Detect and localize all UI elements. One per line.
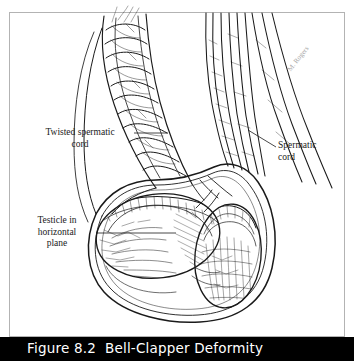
label-spermatic-cord: Spermatic cord bbox=[278, 140, 344, 163]
label-twisted-spermatic-cord: Twisted spermatic cord bbox=[28, 127, 132, 150]
right-testicle-vertical-group bbox=[190, 201, 267, 311]
label-testicle-horizontal-plane: Testicle in horizontal plane bbox=[20, 215, 94, 250]
figure-page: Twisted spermatic cord Spermatic cord Te… bbox=[0, 0, 354, 361]
artwork-ink bbox=[74, 6, 332, 322]
leader-spermatic-cord bbox=[248, 130, 276, 147]
figure-caption-text: Figure 8.2 Bell-Clapper Deformity bbox=[27, 340, 263, 356]
twisted-spermatic-cord-group bbox=[102, 6, 192, 188]
figure-caption-bar: Figure 8.2 Bell-Clapper Deformity bbox=[0, 337, 354, 361]
cord-to-sac-group bbox=[192, 176, 232, 200]
figure-illustration-area: Twisted spermatic cord Spermatic cord Te… bbox=[0, 0, 354, 338]
